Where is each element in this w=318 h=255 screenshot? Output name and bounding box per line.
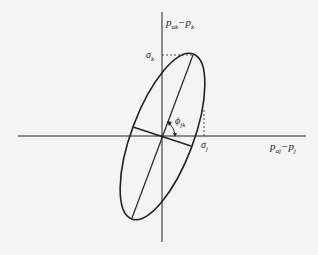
x-axis-label: paj−pj	[270, 140, 296, 155]
sigma-j-label: σj	[201, 139, 208, 153]
angle-label: ϕjk	[175, 115, 185, 129]
y-axis-label: pak−pk	[166, 16, 194, 31]
ellipse-diagram	[0, 0, 318, 255]
sigma-k-label: σk	[146, 49, 154, 63]
